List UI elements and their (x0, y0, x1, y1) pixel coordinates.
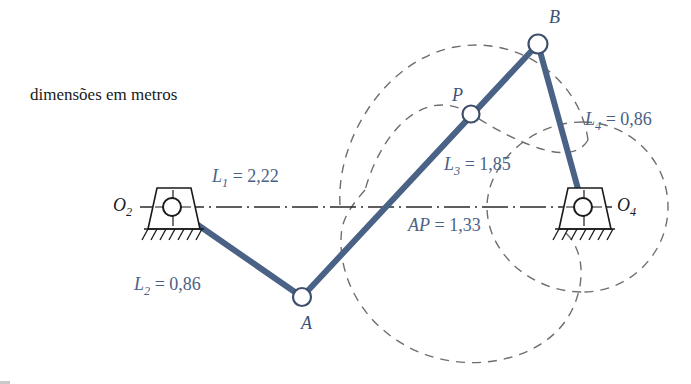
joint-P-icon (463, 106, 480, 123)
dimension-L4-value: 0,86 (620, 109, 652, 129)
dimension-AP-symbol: AP (408, 215, 430, 235)
pivot-O2-joint-icon (163, 198, 181, 216)
link-4-B-O4 (538, 44, 583, 207)
dimension-AP-value: 1,33 (449, 215, 481, 235)
joint-B-icon (529, 35, 548, 54)
dimension-label-L1: L1 = 2,22 (212, 167, 279, 189)
dimension-AP-eq: = (435, 215, 445, 235)
pivot-O2-hatching-icon (142, 229, 202, 240)
dimension-L3-symbol: L (444, 154, 454, 174)
joint-A-icon (293, 288, 311, 306)
pivot-label-O2-sub: 2 (126, 205, 132, 219)
dimension-L2-value: 0,86 (169, 274, 201, 294)
dimension-L1-value: 2,22 (247, 166, 279, 186)
joint-label-A: A (301, 314, 312, 332)
pivot-label-O4-sub: 4 (630, 205, 636, 219)
dimension-L4-eq: = (606, 109, 616, 129)
dimension-L2-symbol: L (134, 274, 144, 294)
dimension-label-L4: L4 = 0,86 (585, 110, 652, 132)
pivot-label-O2: O2 (113, 196, 132, 218)
joint-label-P: P (452, 86, 463, 104)
dimension-label-L2: L2 = 0,86 (134, 275, 201, 297)
dimension-label-L3: L3 = 1,85 (444, 155, 511, 177)
dimension-label-AP: AP = 1,33 (408, 216, 481, 234)
pivot-O4-hatching-icon (553, 229, 613, 240)
four-bar-linkage-figure: dimensões em metros O2 O4 A B P L1 = 2,2… (0, 0, 691, 384)
dimension-L1-eq: = (233, 166, 243, 186)
units-caption: dimensões em metros (30, 86, 177, 103)
pivot-support-O4 (553, 188, 615, 240)
dimension-L3-eq: = (465, 154, 475, 174)
pivot-label-O4-text: O (617, 195, 630, 215)
dimension-L2-eq: = (155, 274, 165, 294)
dimension-L4-symbol: L (585, 109, 595, 129)
pivot-label-O2-text: O (113, 195, 126, 215)
mechanism-drawing (0, 0, 691, 384)
dimension-L1-symbol: L (212, 166, 222, 186)
joint-label-B: B (549, 8, 560, 26)
pivot-O4-joint-icon (574, 198, 592, 216)
pivot-label-O4: O4 (617, 196, 636, 218)
pivot-support-O2 (142, 188, 204, 240)
dimension-L3-value: 1,85 (479, 154, 511, 174)
